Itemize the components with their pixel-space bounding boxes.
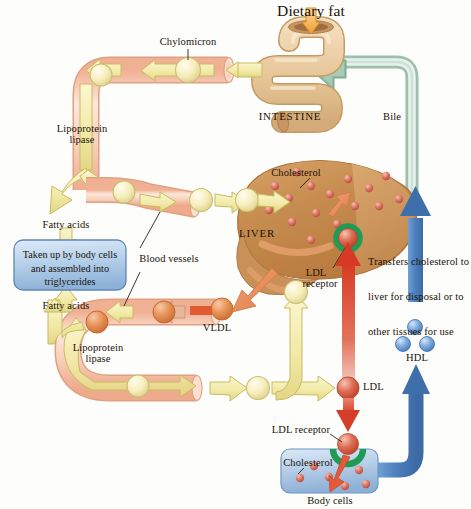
hdl-note-text: Transfers cholesterol to liver for dispo… xyxy=(368,232,469,350)
vldl-particle-2 xyxy=(153,301,175,323)
label-liver: LIVER xyxy=(239,227,275,239)
ldl-to-body-cells-arrow xyxy=(336,398,360,432)
label-body-cells: Body cells xyxy=(307,495,353,507)
label-bile: Bile xyxy=(383,111,401,123)
label-intestine: INTESTINE xyxy=(259,110,322,122)
label-blood-vessels: Blood vessels xyxy=(139,253,198,265)
label-lipoprotein-lipase-bottom-line2: lipase xyxy=(85,353,110,365)
label-lipoprotein-lipase-top-line2: lipase xyxy=(69,134,94,146)
label-chylomicron: Chylomicron xyxy=(160,36,217,48)
label-ldl-receptor-cells: LDL receptor xyxy=(272,424,330,436)
label-fatty-acids-upper: Fatty acids xyxy=(43,219,90,231)
diagram-canvas: Dietary fat Chylomicron INTESTINE Bile L… xyxy=(0,0,471,509)
label-lipoprotein-lipase-bottom-line1: Lipoprotein xyxy=(73,342,124,354)
vldl-particle-3 xyxy=(86,311,108,333)
label-fatty-acids-lower: Fatty acids xyxy=(43,300,90,312)
chylomicron-particle-2 xyxy=(90,64,112,86)
hdl-note-line-3: other tissues for use xyxy=(368,326,469,338)
label-cholesterol-liver: Cholesterol xyxy=(271,167,321,179)
vldl-inlet-arrow xyxy=(190,306,212,315)
triglyceride-line-2: and assembled into xyxy=(14,262,126,276)
label-cholesterol-cells: Cholesterol xyxy=(283,457,333,469)
idl-particle xyxy=(127,375,149,397)
label-hdl: HDL xyxy=(406,352,428,364)
hdl-note-line-1: Transfers cholesterol to xyxy=(368,256,469,268)
label-ldl: LDL xyxy=(363,381,384,393)
label-dietary-fat: Dietary fat xyxy=(277,2,345,19)
body-cells-to-hdl-arrow xyxy=(378,364,430,470)
remnant-particle-1 xyxy=(113,181,135,203)
chylomicron-particle xyxy=(176,58,201,83)
hdl-note-line-2: liver for disposal or to xyxy=(368,291,469,303)
triglyceride-line-1: Taken up by body cells xyxy=(14,248,126,262)
remnant-particle-2 xyxy=(190,189,213,212)
vldl-particle xyxy=(211,298,233,320)
triglyceride-line-3: triglycerides xyxy=(14,275,126,289)
ldl-to-liver-arrow xyxy=(335,242,361,392)
label-ldl-receptor-liver-line2: receptor xyxy=(302,278,337,290)
label-lipoprotein-lipase-top-line1: Lipoprotein xyxy=(57,123,108,135)
label-vldl: VLDL xyxy=(203,322,231,334)
label-ldl-receptor-liver-line1: LDL xyxy=(306,267,327,279)
remnant-particle-3 xyxy=(236,189,259,212)
triglyceride-box-text: Taken up by body cells and assembled int… xyxy=(14,248,126,289)
ldl-particle xyxy=(337,377,359,399)
ldl-precursor-particle xyxy=(247,377,270,400)
